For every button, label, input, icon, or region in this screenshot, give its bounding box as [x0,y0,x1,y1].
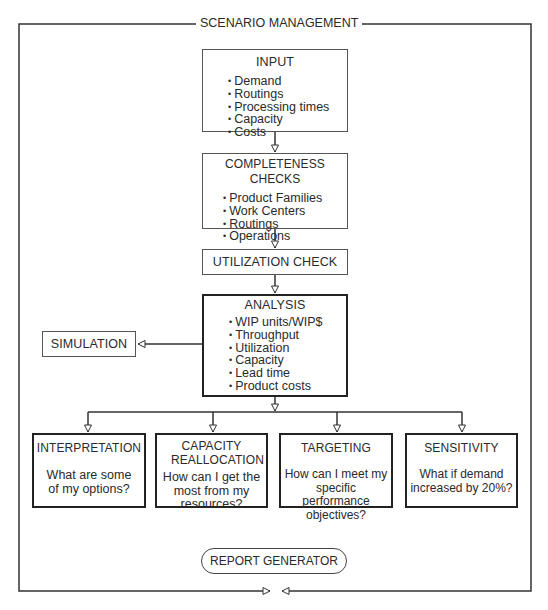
sensitivity-box[interactable]: SENSITIVITY What if demand increased by … [405,433,518,508]
report-generator-button[interactable]: REPORT GENERATOR [201,548,347,574]
capacity-reallocation-box[interactable]: CAPACITY REALLOCATION How can I get the … [155,433,268,508]
utilization-box[interactable]: UTILIZATION CHECK [202,249,348,275]
input-box[interactable]: INPUT Demand Routings Processing times C… [202,49,348,132]
outcome-title: INTERPRETATION [34,441,144,456]
outcome-question: What are some of my options? [42,469,136,496]
list-item: Operations [223,231,347,244]
analysis-box[interactable]: ANALYSIS WIP units/WIP$ Throughput Utili… [202,294,348,397]
list-item: Product costs [229,381,346,394]
targeting-box[interactable]: TARGETING How can I meet my specific per… [279,433,393,508]
completeness-title: COMPLETENESS CHECKS [203,157,347,187]
outcome-question: How can I meet my specific performance o… [281,468,391,522]
utilization-title: UTILIZATION CHECK [203,255,347,270]
input-list: Demand Routings Processing times Capacit… [228,76,347,140]
input-title: INPUT [203,55,347,70]
interpretation-box[interactable]: INTERPRETATION What are some of my optio… [32,433,146,508]
outcome-title: TARGETING [281,441,391,456]
outcome-title: CAPACITY REALLOCATION [171,439,252,467]
report-generator-label: REPORT GENERATOR [202,554,346,568]
outcome-title: SENSITIVITY [407,441,516,456]
outcome-question: What if demand increased by 20%? [407,468,516,495]
simulation-title: SIMULATION [43,337,135,352]
list-item: Costs [228,127,347,140]
completeness-list: Product Families Work Centers Routings O… [223,193,347,244]
simulation-box[interactable]: SIMULATION [42,331,136,357]
analysis-list: WIP units/WIP$ Throughput Utilization Ca… [229,317,346,394]
frame-title: SCENARIO MANAGEMENT [196,16,362,31]
analysis-title: ANALYSIS [204,298,346,313]
outcome-question: How can I get the most from my resources… [161,471,262,512]
completeness-box[interactable]: COMPLETENESS CHECKS Product Families Wor… [202,153,348,229]
